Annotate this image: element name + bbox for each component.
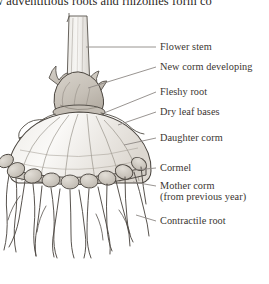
leader-fleshy-root [104, 92, 156, 113]
leader-mother-corm [133, 182, 156, 186]
label-mother-corm-note: (from previous year) [160, 191, 246, 203]
label-new-corm: New corm developing [160, 61, 252, 73]
corm-illustration [0, 0, 269, 284]
label-daughter-corm: Daughter corm [160, 132, 223, 144]
new-corm-shape [49, 66, 107, 119]
label-flower-stem: Flower stem [160, 41, 212, 53]
label-contractile-root: Contractile root [160, 215, 226, 227]
label-dry-leaf-bases: Dry leaf bases [160, 106, 220, 118]
leader-dry-leaf-bases [118, 112, 156, 125]
label-cormel: Cormel [160, 162, 191, 174]
label-mother-corm: Mother corm [160, 180, 215, 192]
leader-new-corm [88, 67, 156, 88]
corm-anatomy-figure: Flower stem New corm developing Fleshy r… [0, 0, 269, 284]
label-fleshy-root: Fleshy root [160, 86, 207, 98]
